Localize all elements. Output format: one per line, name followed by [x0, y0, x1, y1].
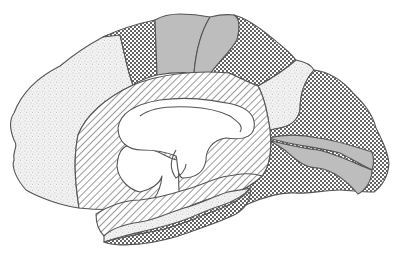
brain-medial-diagram — [0, 0, 396, 269]
regions-layer — [11, 14, 389, 245]
